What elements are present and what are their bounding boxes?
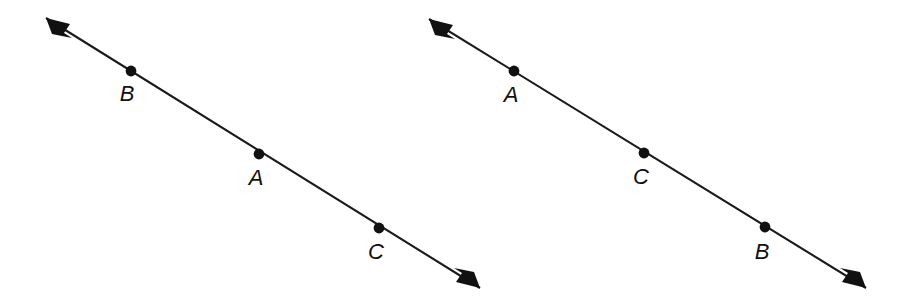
right-point-A-label: A (502, 82, 519, 107)
right-point-C-label: C (633, 164, 649, 189)
right-point-B-dot (760, 222, 771, 233)
left-point-B-dot (126, 66, 137, 77)
right-point-A-dot (509, 66, 520, 77)
left-point-C-label: C (368, 239, 384, 264)
left-point-B-label: B (120, 81, 135, 106)
right-point-C-dot (639, 148, 650, 159)
left-point-A-dot (254, 149, 265, 160)
left-point-A-label: A (247, 165, 264, 190)
right-point-B-label: B (755, 239, 770, 264)
left-point-C-dot (374, 223, 385, 234)
geometry-figure-canvas: B A C A C B (0, 0, 899, 305)
